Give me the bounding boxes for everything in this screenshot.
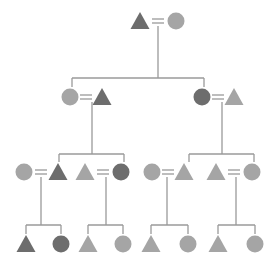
female-circle-icon: [53, 236, 70, 253]
female-circle-icon: [62, 89, 79, 106]
male-triangle-icon: [207, 163, 226, 180]
male-triangle-icon: [131, 12, 150, 29]
male-triangle-icon: [76, 163, 95, 180]
female-circle-icon: [113, 164, 130, 181]
male-triangle-icon: [142, 235, 161, 252]
female-circle-icon: [16, 164, 33, 181]
female-circle-icon: [180, 236, 197, 253]
male-triangle-icon: [175, 163, 194, 180]
male-triangle-icon: [93, 88, 112, 105]
pedigree-diagram: [0, 0, 278, 265]
female-circle-icon: [168, 13, 185, 30]
male-triangle-icon: [225, 88, 244, 105]
male-triangle-icon: [17, 235, 36, 252]
female-circle-icon: [244, 164, 261, 181]
male-triangle-icon: [49, 163, 68, 180]
female-circle-icon: [247, 236, 264, 253]
female-circle-icon: [115, 236, 132, 253]
male-triangle-icon: [79, 235, 98, 252]
female-circle-icon: [144, 164, 161, 181]
male-triangle-icon: [209, 235, 228, 252]
female-circle-icon: [194, 89, 211, 106]
